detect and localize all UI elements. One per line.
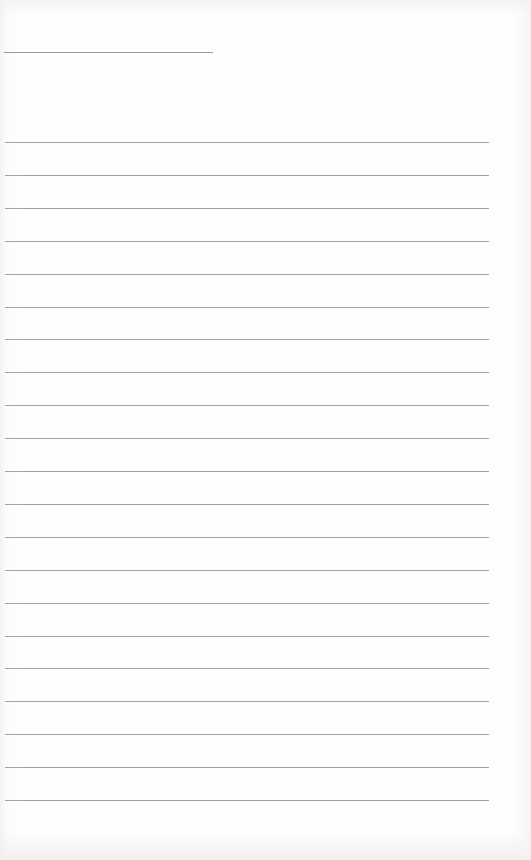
ruled-line [5,636,489,637]
top-edge-shadow [0,0,531,14]
ruled-line [5,438,489,439]
ruled-line [5,274,489,275]
ruled-line [5,241,489,242]
ruled-line [5,339,489,340]
ruled-line [5,471,489,472]
ruled-line [5,570,489,571]
ruled-line [5,307,489,308]
ruled-line [5,537,489,538]
header-name-line [4,52,213,53]
ruled-line [5,734,489,735]
ruled-line [5,175,489,176]
ruled-line [5,701,489,702]
ruled-line [5,767,489,768]
ruled-line [5,504,489,505]
ruled-line [5,800,489,801]
lined-paper-page [0,0,531,860]
ruled-line [5,142,489,143]
bottom-edge-shadow [0,830,531,860]
ruled-line [5,208,489,209]
ruled-line [5,668,489,669]
ruled-line [5,405,489,406]
ruled-line [5,372,489,373]
ruled-line [5,603,489,604]
